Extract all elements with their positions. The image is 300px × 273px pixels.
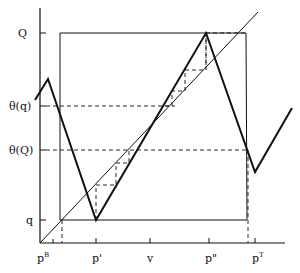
label-theta-q: θ(q)	[9, 100, 31, 113]
label-v: v	[146, 252, 154, 265]
cobweb-lower	[96, 150, 129, 220]
label-p-double-prime: p"	[205, 252, 217, 265]
label-q: q	[26, 214, 33, 227]
tent-map-curve	[35, 33, 292, 220]
label-p-prime: p'	[92, 252, 102, 265]
diagonal-line	[40, 12, 258, 243]
label-theta-Q: θ(Q)	[9, 144, 33, 157]
label-pT: pT	[252, 251, 264, 265]
label-pB: pB	[37, 251, 49, 265]
tent-map-diagram: Q θ(q) θ(Q) q pB p' v p" pT	[0, 0, 300, 273]
label-Q: Q	[18, 27, 27, 40]
